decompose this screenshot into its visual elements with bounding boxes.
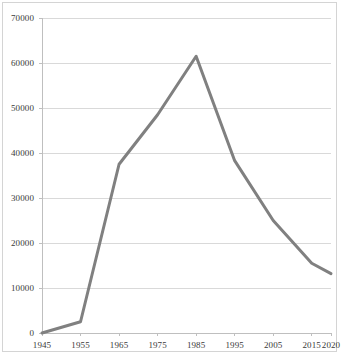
data-series (42, 56, 331, 333)
axis-lines (39, 18, 331, 333)
gridlines (42, 18, 331, 288)
series-line (42, 56, 331, 333)
chart-figure: 010000200003000040000500006000070000 194… (2, 2, 337, 352)
line-chart-svg (3, 3, 338, 353)
plot-area: 010000200003000040000500006000070000 194… (3, 3, 336, 351)
